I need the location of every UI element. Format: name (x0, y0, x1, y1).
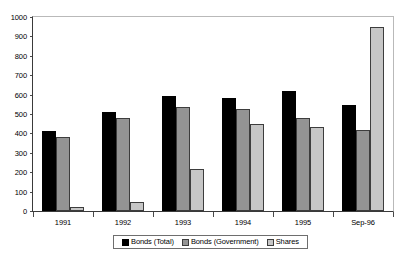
x-axis-category-label: 1992 (115, 218, 131, 227)
bar (250, 124, 264, 211)
y-axis-tick-label: 1000 (11, 14, 27, 21)
y-axis-tick-label: 0 (23, 208, 27, 215)
x-axis-tick (213, 212, 214, 217)
bar-group (273, 17, 333, 211)
legend-swatch-icon (182, 239, 189, 246)
y-axis-tick-label: 300 (15, 149, 27, 156)
bar-group (33, 17, 93, 211)
bar-group (213, 17, 273, 211)
bar (70, 207, 84, 211)
chart-legend: Bonds (Total)Bonds (Government)Shares (113, 235, 308, 249)
x-axis-tick (153, 212, 154, 217)
x-axis-tick (93, 212, 94, 217)
x-axis-category-label: 1995 (295, 218, 311, 227)
y-axis-tick-label: 400 (15, 130, 27, 137)
bar-group (93, 17, 153, 211)
bar (370, 27, 384, 211)
legend-label: Bonds (Total) (131, 238, 174, 246)
bar (342, 105, 356, 211)
bar (310, 127, 324, 211)
x-axis-category-label: 1991 (55, 218, 71, 227)
x-axis-tick (273, 212, 274, 217)
y-axis-tick-label: 200 (15, 169, 27, 176)
y-axis-tick-label: 600 (15, 91, 27, 98)
bar-chart: 01002003004005006007008009001000 1991199… (0, 0, 404, 254)
x-axis-category-label: 1994 (235, 218, 251, 227)
x-axis-category-label: 1993 (175, 218, 191, 227)
bar (356, 130, 370, 211)
bar (102, 112, 116, 211)
legend-swatch-icon (267, 239, 274, 246)
bar (116, 118, 130, 211)
legend-label: Bonds (Government) (191, 238, 259, 246)
bar-group (153, 17, 213, 211)
bar (296, 118, 310, 212)
legend-item: Bonds (Government) (182, 238, 259, 246)
x-axis-category-label: Sep-96 (351, 218, 375, 227)
y-axis-tick-label: 900 (15, 33, 27, 40)
legend-swatch-icon (122, 239, 129, 246)
x-axis-labels: 19911992199319941995Sep-96 (33, 218, 393, 232)
legend-item: Shares (267, 238, 299, 246)
bar-group (333, 17, 393, 211)
bar (236, 109, 250, 211)
bar (42, 131, 56, 212)
bar (130, 202, 144, 211)
bar (162, 96, 176, 211)
x-axis-tick (33, 212, 34, 217)
y-axis: 01002003004005006007008009001000 (0, 0, 32, 214)
legend-label: Shares (276, 238, 299, 246)
y-axis-tick-label: 100 (15, 188, 27, 195)
plot-area (33, 17, 393, 211)
y-axis-tick-label: 800 (15, 52, 27, 59)
x-axis-tick (333, 212, 334, 217)
y-axis-tick-label: 700 (15, 72, 27, 79)
y-axis-tick-label: 500 (15, 111, 27, 118)
bar (176, 107, 190, 211)
bar (222, 98, 236, 211)
bar (56, 137, 70, 211)
bar (190, 169, 204, 211)
bar (282, 91, 296, 211)
x-axis-tick (393, 212, 394, 217)
legend-item: Bonds (Total) (122, 238, 174, 246)
